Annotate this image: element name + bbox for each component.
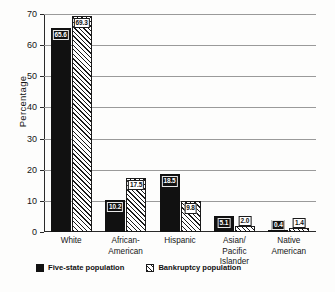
y-axis-tick-label: 70: [27, 10, 37, 19]
bar-group: 5.12.0: [207, 14, 261, 232]
x-axis-category-label-line: African-: [98, 236, 152, 247]
bar-group: 65.669.3: [44, 14, 98, 232]
bar: 69.3: [72, 16, 92, 232]
x-axis-category-label-line: White: [44, 236, 98, 247]
y-axis-tick-label: 60: [27, 41, 37, 50]
bar-value-label: 9.8: [184, 203, 197, 213]
bar: 9.8: [181, 201, 201, 232]
y-axis-tick-label: 10: [27, 196, 37, 205]
y-axis-tick-label: 20: [27, 165, 37, 174]
y-axis-title: Percentage: [17, 47, 28, 157]
bar-pair: 0.41.4: [262, 14, 316, 232]
bar-slot: 0.4: [268, 230, 288, 232]
x-axis-category-label-line: Asian/: [207, 236, 261, 247]
bar: 17.5: [126, 178, 146, 233]
bar-value-label: 65.6: [53, 30, 69, 40]
legend-item: Bankruptcy population: [146, 263, 241, 272]
y-axis-tick-mark: [40, 232, 44, 233]
y-axis-tick-label: 50: [27, 72, 37, 81]
bar-chart: Percentage 010203040506070 65.669.310.21…: [0, 0, 335, 292]
y-axis-tick-label: 30: [27, 134, 37, 143]
bar-slot: 17.5: [126, 178, 146, 233]
bar-value-label: 69.3: [74, 18, 90, 28]
bar-slot: 5.1: [214, 216, 234, 232]
bar: 0.4: [268, 230, 288, 232]
bar-group: 0.41.4: [262, 14, 316, 232]
bar-pair: 5.12.0: [207, 14, 261, 232]
bar-value-label: 18.5: [161, 176, 177, 186]
bar-slot: 9.8: [181, 201, 201, 232]
bar-value-label: 17.5: [128, 180, 144, 190]
bar-slot: 69.3: [72, 16, 92, 232]
y-axis-tick-label: 40: [27, 103, 37, 112]
legend-label: Five-state population: [48, 263, 124, 272]
bar-pair: 65.669.3: [44, 14, 98, 232]
bar-pair: 10.217.5: [98, 14, 152, 232]
chart-legend: Five-state populationBankruptcy populati…: [36, 263, 241, 272]
bar: 2.0: [235, 226, 255, 232]
x-axis-category-label: Native American: [262, 236, 316, 268]
bar-groups: 65.669.310.217.518.59.85.12.00.41.4: [44, 14, 316, 232]
bar: 5.1: [214, 216, 234, 232]
legend-swatch: [146, 264, 154, 272]
x-axis-category-label-line: Hispanic: [153, 236, 207, 247]
bar: 10.2: [105, 200, 125, 232]
bar: 18.5: [160, 174, 180, 232]
x-axis-category-label-line: American: [98, 247, 152, 258]
x-axis-category-label-line: Native American: [262, 236, 316, 257]
bar-group: 18.59.8: [153, 14, 207, 232]
bar-slot: 2.0: [235, 226, 255, 232]
bar-pair: 18.59.8: [153, 14, 207, 232]
bar-slot: 18.5: [160, 174, 180, 232]
bar-value-label: 0.4: [272, 220, 285, 230]
bar: 65.6: [51, 28, 71, 232]
y-axis-tick-label: 0: [32, 228, 37, 237]
bar-slot: 10.2: [105, 200, 125, 232]
legend-item: Five-state population: [36, 263, 124, 272]
bar-slot: 1.4: [289, 228, 309, 232]
bar: 1.4: [289, 228, 309, 232]
bar-value-label: 1.4: [293, 218, 306, 228]
bar-group: 10.217.5: [98, 14, 152, 232]
plot-area: 010203040506070 65.669.310.217.518.59.85…: [44, 14, 316, 232]
bar-value-label: 10.2: [107, 202, 123, 212]
legend-swatch: [36, 264, 44, 272]
bar-value-label: 5.1: [218, 218, 231, 228]
legend-label: Bankruptcy population: [158, 263, 241, 272]
bar-value-label: 2.0: [239, 216, 252, 226]
bar-slot: 65.6: [51, 28, 71, 232]
